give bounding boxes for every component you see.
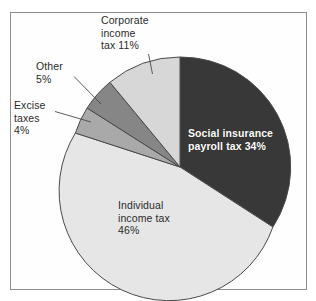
slice-label-social-insurance-payroll-tax: Social insurance payroll tax 34% [188,127,273,152]
pie-chart-figure: Corporate income tax 11% Other 5% Excise… [0,0,316,301]
leader-line-other [74,77,101,105]
slice-label-excise-taxes: Excise taxes 4% [14,99,46,137]
slice-label-individual-income-tax: Individual income tax 46% [118,199,170,237]
slice-label-other: Other 5% [36,60,63,85]
slice-label-corporate-income-tax: Corporate income tax 11% [101,14,149,52]
